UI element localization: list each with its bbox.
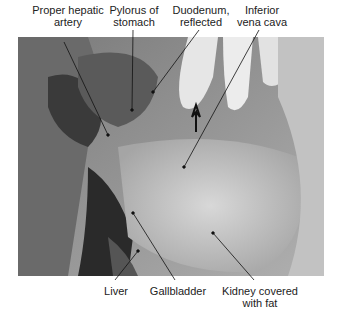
label-inferior-vena-cava: Inferior vena cava xyxy=(232,4,292,28)
label-kidney-covered-with-fat: Kidney covered with fat xyxy=(222,285,298,309)
label-proper-hepatic-artery: Proper hepatic artery xyxy=(30,4,106,28)
label-duodenum-reflected: Duodenum, reflected xyxy=(172,4,230,28)
label-liver: Liver xyxy=(96,285,136,297)
leader-lines xyxy=(0,0,342,309)
label-gallbladder: Gallbladder xyxy=(148,285,208,297)
label-pylorus-of-stomach: Pylorus of stomach xyxy=(106,4,162,28)
